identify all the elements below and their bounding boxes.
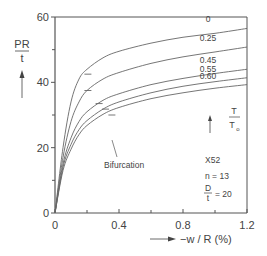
curve-label: 0 [206, 14, 211, 24]
x-tick-label: 0.4 [111, 219, 126, 231]
y-tick-label: 0 [43, 207, 49, 219]
svg-text:T: T [231, 106, 237, 116]
legend-arrowhead-icon [208, 115, 212, 121]
svg-text:n = 13: n = 13 [205, 171, 229, 181]
y-arrowhead-icon [20, 70, 25, 78]
y-axis-label: PR t [14, 38, 29, 98]
svg-text:t: t [207, 193, 210, 203]
x-tick-label: 0.8 [175, 219, 190, 231]
svg-text:= 20: = 20 [215, 189, 232, 199]
svg-text:Bifurcation: Bifurcation [104, 160, 144, 170]
x-axis-label: −w / R (%) [150, 233, 232, 245]
x-arrowhead-icon [168, 237, 176, 242]
curve-label: 0.60 [200, 71, 217, 81]
svg-text:D: D [205, 183, 211, 193]
axis-ticks [51, 17, 247, 213]
bifurcation-leader-line [112, 140, 117, 157]
svg-text:X52: X52 [205, 155, 220, 165]
svg-text:PR: PR [14, 38, 29, 50]
y-tick-label: 60 [37, 11, 49, 23]
svg-text:t: t [20, 52, 23, 64]
curve-t-0 [55, 28, 247, 213]
data-curves [55, 28, 247, 213]
svg-text:−w / R (%): −w / R (%) [180, 233, 232, 245]
y-tick-label: 20 [37, 142, 49, 154]
curve-labels: 00.250.450.550.60 [200, 14, 217, 80]
x-tick-label: 0 [52, 219, 58, 231]
legend-t-over-t0: T T o [208, 106, 240, 133]
curve-label: 0.25 [200, 33, 217, 43]
y-tick-label: 40 [37, 76, 49, 88]
bifurcation-annotation: Bifurcation [104, 140, 144, 170]
svg-text:o: o [236, 126, 240, 132]
parameters-block: X52 n = 13 D t = 20 [204, 155, 232, 203]
chart: 00.40.81.20204060 00.250.450.550.60 PR t… [0, 0, 267, 256]
x-tick-label: 1.2 [239, 219, 254, 231]
svg-text:T: T [229, 120, 235, 130]
